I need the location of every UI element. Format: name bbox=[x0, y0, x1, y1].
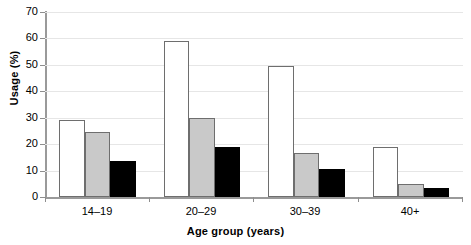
y-axis-title: Usage (%) bbox=[8, 38, 20, 118]
bar-group-0-series-2 bbox=[110, 161, 136, 197]
x-tick-label-0: 14–19 bbox=[52, 205, 142, 218]
y-tick-label-10: 10 bbox=[0, 165, 38, 176]
x-tick-label-2: 30–39 bbox=[260, 205, 350, 218]
gridline-30 bbox=[45, 118, 463, 119]
bar-group-1-series-0 bbox=[164, 41, 190, 197]
bar-chart-figure: Usage (%) 70 60 50 40 30 20 10 0 bbox=[0, 0, 471, 245]
x-tick-label-3: 40+ bbox=[365, 205, 455, 218]
bar-group-0-series-1 bbox=[85, 132, 111, 197]
bar-group-1-series-2 bbox=[215, 147, 241, 197]
bar-group-1-series-1 bbox=[189, 118, 215, 197]
x-tick-3 bbox=[358, 197, 359, 202]
bar-group-3-series-0 bbox=[373, 147, 399, 197]
x-axis-title: Age group (years) bbox=[0, 225, 471, 237]
bar-group-0-series-0 bbox=[59, 120, 85, 197]
x-tick-1 bbox=[149, 197, 150, 202]
bar-group-2-series-2 bbox=[319, 169, 345, 197]
bar-group-3-series-2 bbox=[424, 188, 450, 197]
y-tick-label-30: 30 bbox=[0, 112, 38, 123]
gridline-50 bbox=[45, 65, 463, 66]
x-tick-label-1: 20–29 bbox=[156, 205, 246, 218]
gridline-70 bbox=[45, 12, 463, 13]
x-tick-0 bbox=[45, 197, 46, 202]
y-tick-label-0: 0 bbox=[0, 191, 38, 202]
bar-group-3-series-1 bbox=[398, 184, 424, 197]
plot-area bbox=[45, 12, 463, 197]
y-tick-label-70: 70 bbox=[0, 6, 38, 17]
bar-group-2-series-1 bbox=[294, 153, 320, 197]
bar-group-2-series-0 bbox=[268, 66, 294, 197]
y-tick-label-40: 40 bbox=[0, 85, 38, 96]
y-tick-label-50: 50 bbox=[0, 59, 38, 70]
gridline-40 bbox=[45, 91, 463, 92]
gridline-60 bbox=[45, 38, 463, 39]
x-tick-4 bbox=[462, 197, 463, 202]
y-tick-label-20: 20 bbox=[0, 138, 38, 149]
y-tick-label-60: 60 bbox=[0, 32, 38, 43]
x-tick-2 bbox=[253, 197, 254, 202]
